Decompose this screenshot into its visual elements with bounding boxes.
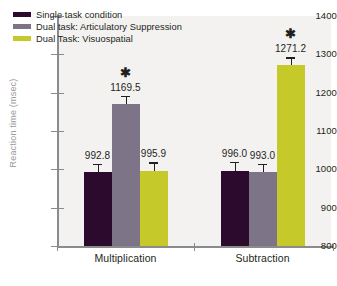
y-axis-tick-mark xyxy=(51,131,64,132)
bar-value-label: 1271.2 xyxy=(267,43,315,54)
error-bar-cap xyxy=(93,164,102,166)
x-axis-category-label: Subtraction xyxy=(203,252,323,264)
bar-multiplication-series-0 xyxy=(84,172,112,246)
y-axis-tick-mark xyxy=(51,208,64,209)
bar-subtraction-series-0 xyxy=(221,171,249,246)
y-axis-tick-mark xyxy=(51,169,64,170)
legend-color-swatch xyxy=(13,24,31,29)
y-axis-tick-label: 1400 xyxy=(291,10,337,21)
bar-subtraction-series-1 xyxy=(249,172,277,246)
bar-value-label: 1169.5 xyxy=(102,82,150,93)
error-bar-cap xyxy=(258,164,267,166)
y-axis-title: Reaction time (msec) xyxy=(8,63,18,183)
x-axis-tick-mark xyxy=(194,243,195,251)
bar-multiplication-series-1 xyxy=(112,104,140,246)
legend-color-swatch xyxy=(13,36,31,41)
error-bar-cap xyxy=(121,96,130,98)
significance-marker: ✱ xyxy=(279,27,303,40)
error-bar-cap xyxy=(286,57,295,59)
legend-item: Dual task: Articulatory Suppression xyxy=(13,21,182,32)
legend: Single task conditionDual task: Articula… xyxy=(13,9,182,45)
x-axis-category-label: Multiplication xyxy=(66,252,186,264)
legend-item-label: Dual Task: Visuospatial xyxy=(36,34,133,44)
error-bar-cap xyxy=(230,162,239,164)
y-axis-line xyxy=(57,16,59,248)
y-axis-tick-mark xyxy=(51,54,64,55)
legend-item: Dual Task: Visuospatial xyxy=(13,33,182,44)
y-axis-tick-mark xyxy=(51,93,64,94)
bar-value-label: 995.9 xyxy=(130,148,178,159)
significance-marker: ✱ xyxy=(114,66,138,79)
figure-container: Reaction time (msec) 8009001000110012001… xyxy=(0,0,337,286)
bar-multiplication-series-2 xyxy=(140,171,168,246)
legend-item-label: Dual task: Articulatory Suppression xyxy=(36,22,182,32)
figure-caption xyxy=(0,272,337,286)
error-bar-cap xyxy=(149,162,158,164)
legend-item: Single task condition xyxy=(13,9,182,20)
legend-color-swatch xyxy=(13,12,31,17)
legend-item-label: Single task condition xyxy=(36,10,122,20)
x-axis-tick-mark xyxy=(333,243,334,251)
bar-subtraction-series-2 xyxy=(277,65,305,246)
x-axis-tick-mark xyxy=(57,243,58,251)
